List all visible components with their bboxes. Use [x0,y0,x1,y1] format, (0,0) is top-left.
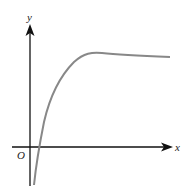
y-axis-label: y [26,11,32,23]
x-axis-label: x [174,141,180,153]
chart: y x O [0,0,188,194]
origin-label: O [17,149,25,161]
curve-line [34,53,170,185]
